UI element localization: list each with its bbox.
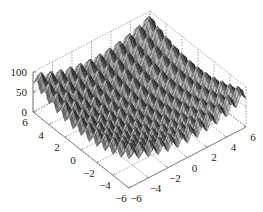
grid-line bbox=[97, 161, 99, 163]
grid-line bbox=[129, 186, 131, 188]
grid-line bbox=[113, 174, 115, 176]
x-tick-label: 0 bbox=[192, 162, 198, 174]
grid-line bbox=[127, 187, 129, 189]
x-tick-label: −6 bbox=[130, 192, 142, 204]
surface-plot: 100 50 0 −6−4−202466420−2−4−6 bbox=[0, 0, 263, 212]
grid-line bbox=[147, 176, 149, 178]
y-tick-label: −4 bbox=[99, 179, 111, 191]
grid-line bbox=[225, 136, 227, 138]
y-tick-label: −2 bbox=[83, 167, 95, 179]
grid-line bbox=[49, 123, 51, 125]
y-tick-label: 2 bbox=[54, 141, 60, 153]
grid-line bbox=[166, 166, 168, 168]
y-tick-label: −6 bbox=[115, 192, 127, 204]
z-tick-50: 50 bbox=[16, 86, 28, 98]
y-tick-label: 6 bbox=[22, 116, 28, 128]
grid-line bbox=[65, 136, 67, 138]
grid-line bbox=[186, 156, 188, 158]
x-tick-label: −2 bbox=[169, 172, 181, 184]
x-tick-label: 4 bbox=[231, 141, 237, 153]
x-tick-label: 6 bbox=[250, 131, 256, 143]
grid-line bbox=[205, 146, 207, 148]
grid-line bbox=[81, 148, 83, 150]
x-tick-label: −4 bbox=[150, 182, 162, 194]
x-tick-label: 2 bbox=[211, 151, 217, 163]
y-tick-label: 4 bbox=[38, 129, 44, 141]
z-tick-100: 100 bbox=[11, 66, 28, 78]
y-tick-label: 0 bbox=[70, 154, 76, 166]
